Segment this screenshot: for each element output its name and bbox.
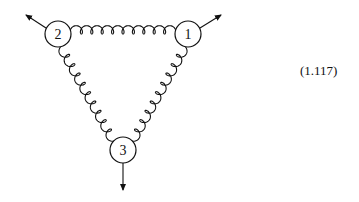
vertex-label: 1 <box>185 27 192 42</box>
arrow-icon <box>26 15 46 28</box>
gluon-propagators <box>59 26 187 142</box>
arrow-icon <box>200 15 221 28</box>
gluon-line <box>70 26 176 34</box>
vertex-3: 3 <box>110 137 136 163</box>
equation-number: (1.117) <box>300 63 337 79</box>
vertex-label: 2 <box>55 27 62 42</box>
vertex-1: 1 <box>175 21 201 47</box>
feynman-diagram: 1 2 3 <box>0 0 359 202</box>
gluon-line <box>59 45 117 141</box>
vertex-2: 2 <box>45 21 71 47</box>
vertex-label: 3 <box>120 143 127 158</box>
gluon-line <box>129 45 187 141</box>
